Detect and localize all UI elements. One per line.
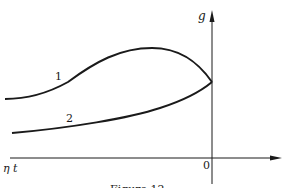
origin-label: 0 (203, 159, 210, 172)
curve-1-label: 1 (55, 70, 62, 83)
y-axis-arrow-icon (210, 10, 215, 22)
diagram-canvas: g η t 0 1 2 Figure 12 (0, 0, 286, 188)
curve-2-label: 2 (66, 112, 73, 125)
figure-caption: Figure 12 (110, 183, 165, 188)
x-axis-label: η t (3, 162, 18, 175)
curve-1 (5, 48, 212, 99)
y-axis-label: g (198, 9, 206, 23)
curve-2 (12, 82, 212, 133)
x-axis-arrow-icon (270, 156, 282, 161)
